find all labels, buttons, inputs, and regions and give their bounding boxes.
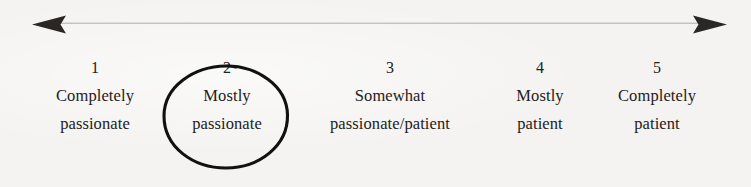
scale-point-label-line2: patient — [618, 116, 696, 133]
scale-point-label-line1: Completely — [618, 88, 696, 105]
scale-point-5[interactable]: 5 Completely patient — [618, 60, 696, 132]
likert-scale-figure: 1 Completely passionate 2 Mostly passion… — [0, 0, 751, 187]
scale-point-2[interactable]: 2 Mostly passionate — [192, 60, 262, 132]
scale-point-number: 1 — [56, 60, 134, 76]
scale-point-label-line1: Somewhat — [330, 88, 450, 105]
scale-point-4[interactable]: 4 Mostly patient — [516, 60, 563, 132]
scale-point-label-line2: patient — [516, 116, 563, 133]
scale-point-label-line1: Completely — [56, 88, 134, 105]
scale-point-label-line1: Mostly — [516, 88, 563, 105]
scale-point-label-line1: Mostly — [192, 88, 262, 105]
scale-point-number: 3 — [330, 60, 450, 76]
scale-points-row: 1 Completely passionate 2 Mostly passion… — [0, 60, 751, 180]
scale-point-label-line2: passionate/patient — [330, 116, 450, 133]
scale-point-number: 2 — [192, 60, 262, 76]
scale-point-label-line2: passionate — [56, 116, 134, 133]
double-headed-arrow — [0, 0, 751, 50]
scale-point-number: 4 — [516, 60, 563, 76]
scale-point-number: 5 — [618, 60, 696, 76]
scale-point-label-line2: passionate — [192, 116, 262, 133]
scale-point-3[interactable]: 3 Somewhat passionate/patient — [330, 60, 450, 132]
scale-point-1[interactable]: 1 Completely passionate — [56, 60, 134, 132]
